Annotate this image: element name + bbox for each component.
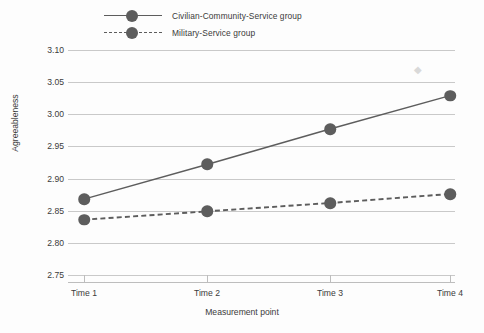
data-point-marker <box>444 90 456 102</box>
data-point-marker <box>201 159 213 171</box>
data-point-marker <box>78 214 90 226</box>
data-point-marker <box>324 197 336 209</box>
x-axis-title: Measurement point <box>0 307 484 317</box>
y-axis-title: Agreeableness <box>10 68 20 178</box>
data-point-marker <box>201 206 213 218</box>
series-line-2 <box>84 194 450 220</box>
data-point-marker <box>78 193 90 205</box>
line-chart: Civilian-Community-Service group Militar… <box>0 0 484 333</box>
faint-droplet-artifact-icon: ◆ <box>413 64 422 75</box>
data-point-marker <box>444 188 456 200</box>
series-line-1 <box>84 96 450 199</box>
data-point-marker <box>324 123 336 135</box>
series-layer <box>0 0 484 333</box>
